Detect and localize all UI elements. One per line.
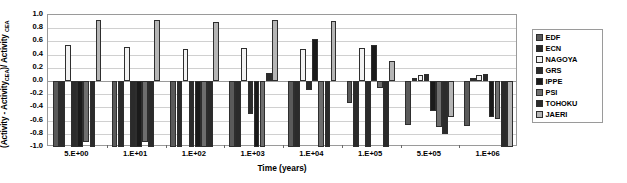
bar (248, 81, 254, 114)
bar (325, 81, 331, 147)
y-tick-label: -0.8 (19, 129, 43, 137)
legend-item[interactable]: NAGOYA (536, 54, 600, 65)
bar (353, 81, 359, 147)
x-tick-label: 1.E+04 (282, 149, 341, 158)
bar (318, 81, 324, 147)
bar-group (48, 15, 107, 145)
y-tick-label: 1.0 (19, 10, 43, 18)
bar (136, 81, 142, 147)
bar (77, 81, 83, 147)
bar (118, 81, 124, 147)
bar (405, 81, 411, 125)
y-axis-title-sub2: CEA (4, 20, 10, 32)
x-axis-tick (283, 145, 284, 148)
legend-item[interactable]: IPPE (536, 76, 600, 87)
bar (65, 45, 71, 81)
bar-group (283, 15, 342, 145)
bar (483, 74, 489, 81)
x-axis-tick (166, 145, 167, 148)
y-tick-label: -0.4 (19, 102, 43, 110)
x-axis-tick (107, 145, 108, 148)
bar (383, 81, 389, 147)
x-tick-label: 1.E+05 (341, 149, 400, 158)
legend-label: IPPE (546, 78, 563, 85)
bar (412, 78, 418, 81)
y-tick-label: -0.6 (19, 116, 43, 124)
y-tick-label: -0.2 (19, 89, 43, 97)
bar (288, 81, 294, 147)
bar (507, 81, 513, 147)
bar (183, 49, 189, 81)
bar (347, 81, 353, 103)
bar (464, 81, 470, 126)
x-tick-label: 5.E+00 (47, 149, 106, 158)
bar (241, 48, 247, 81)
bar-chart: (Activity - ActivityCEA)/ Activity CEA 1… (0, 0, 627, 183)
legend-label: GRS (546, 67, 562, 74)
bar (377, 81, 383, 88)
legend-item[interactable]: ECN (536, 43, 600, 54)
x-axis-tick (401, 145, 402, 148)
x-tick-label: 1.E+02 (165, 149, 224, 158)
bar (130, 81, 136, 147)
bar-group (166, 15, 225, 145)
legend-swatch-icon (536, 67, 543, 74)
bar (195, 81, 201, 147)
bar (142, 81, 148, 142)
bar (430, 81, 436, 111)
bar (59, 81, 65, 147)
bar (476, 75, 482, 81)
bar (207, 81, 213, 147)
y-axis-title-wrap: (Activity - ActivityCEA)/ Activity CEA (0, 0, 16, 150)
y-tick-label: 0.4 (19, 50, 43, 58)
bar (254, 81, 260, 147)
x-axis-title: Time (years) (47, 163, 517, 173)
bar (470, 78, 476, 81)
bar (71, 81, 77, 147)
x-axis-tick (459, 145, 460, 148)
bar (272, 20, 278, 81)
bar (389, 61, 395, 81)
legend-swatch-icon (536, 111, 543, 118)
bar-group (342, 15, 401, 145)
bar (177, 81, 183, 147)
legend-swatch-icon (536, 89, 543, 96)
legend-item[interactable]: GRS (536, 65, 600, 76)
bar (96, 20, 102, 81)
bar (501, 81, 507, 147)
bar (331, 21, 337, 81)
legend-label: JAERI (546, 111, 568, 118)
bar (53, 81, 59, 147)
legend: EDFECNNAGOYAGRSIPPEPSITOHOKUJAERI (532, 29, 603, 123)
legend-item[interactable]: JAERI (536, 109, 600, 120)
legend-item[interactable]: EDF (536, 32, 600, 43)
plot-area (47, 14, 517, 146)
legend-label: EDF (546, 34, 561, 41)
bar (124, 47, 130, 81)
bar-group (401, 15, 460, 145)
legend-item[interactable]: PSI (536, 87, 600, 98)
bar (436, 81, 442, 127)
bar (359, 48, 365, 81)
legend-item[interactable]: TOHOKU (536, 98, 600, 109)
bar (90, 81, 96, 147)
x-tick-label: 1.E+06 (458, 149, 517, 158)
bar (442, 81, 448, 134)
legend-label: ECN (546, 45, 562, 52)
bar (189, 81, 195, 147)
x-tick-label: 1.E+03 (223, 149, 282, 158)
bar (235, 81, 241, 147)
bar (495, 81, 501, 119)
y-axis-tick-labels: 1.00.80.60.40.20.0-0.2-0.4-0.6-0.8-1.0 (17, 0, 43, 150)
bar (294, 81, 300, 147)
y-axis-title-part1: (Activity - Activity (0, 81, 9, 148)
bar (260, 81, 266, 147)
bar (229, 81, 235, 147)
bar (213, 22, 219, 81)
bar (448, 81, 454, 117)
legend-label: NAGOYA (546, 56, 578, 63)
y-tick-label: 0.2 (19, 63, 43, 71)
x-axis-tick-labels: 5.E+001.E+011.E+021.E+031.E+041.E+055.E+… (47, 149, 517, 161)
bar-groups (48, 15, 516, 145)
bar-group (459, 15, 518, 145)
